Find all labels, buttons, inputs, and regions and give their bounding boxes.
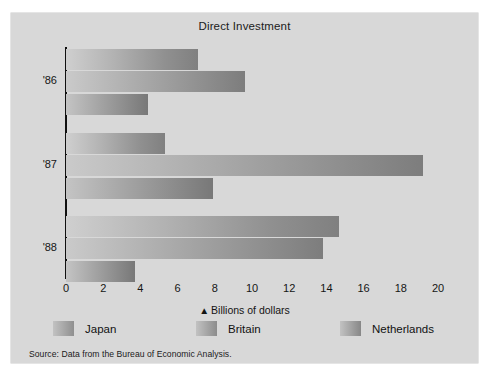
x-tick-label: 12 xyxy=(283,282,295,294)
x-tick-label: 16 xyxy=(357,282,369,294)
bar-japan-1988 xyxy=(66,216,339,237)
x-tick-label: 20 xyxy=(432,282,444,294)
x-tick-label: 10 xyxy=(246,282,258,294)
source-note: Source: Data from the Bureau of Economic… xyxy=(29,349,232,359)
legend-label-netherlands: Netherlands xyxy=(372,323,434,335)
legend-item-japan: Japan xyxy=(53,321,116,336)
x-tick-label: 8 xyxy=(212,282,218,294)
legend-item-netherlands: Netherlands xyxy=(340,321,434,336)
legend-swatch-japan xyxy=(53,321,74,336)
bar-japan-1986 xyxy=(66,49,198,70)
bar-netherlands-1986 xyxy=(66,94,148,115)
bar-britain-1987 xyxy=(66,155,423,176)
x-tick-label: 6 xyxy=(175,282,181,294)
x-tick-label: 0 xyxy=(63,282,69,294)
bar-britain-1986 xyxy=(66,71,245,92)
axis-caption-label: Billions of dollars xyxy=(211,304,290,316)
legend-label-japan: Japan xyxy=(85,323,116,335)
bar-japan-1987 xyxy=(66,133,165,154)
plot-area: '86 '87 '88 02468101214161820 xyxy=(66,47,438,279)
x-tick-label: 14 xyxy=(320,282,332,294)
bar-netherlands-1987 xyxy=(66,178,213,199)
y-tick-label-1988: '88 xyxy=(17,241,57,253)
legend-swatch-netherlands xyxy=(340,321,361,336)
x-tick-label: 2 xyxy=(100,282,106,294)
chart-legend: Japan Britain Netherlands xyxy=(53,321,453,343)
x-tick-label: 18 xyxy=(395,282,407,294)
axis-caption: ▲Billions of dollars xyxy=(11,304,478,316)
y-tick-label-1987: '87 xyxy=(17,158,57,170)
x-tick-label: 4 xyxy=(137,282,143,294)
chart-title: Direct Investment xyxy=(11,20,478,32)
legend-label-britain: Britain xyxy=(228,323,261,335)
bar-britain-1988 xyxy=(66,238,323,259)
legend-swatch-britain xyxy=(196,321,217,336)
legend-item-britain: Britain xyxy=(196,321,261,336)
y-tick-label-1986: '86 xyxy=(17,74,57,86)
triangle-marker-icon: ▲ xyxy=(199,305,209,316)
chart-figure: Direct Investment '86 '87 '88 0246810121… xyxy=(11,13,478,363)
x-axis: 02468101214161820 xyxy=(66,279,438,301)
